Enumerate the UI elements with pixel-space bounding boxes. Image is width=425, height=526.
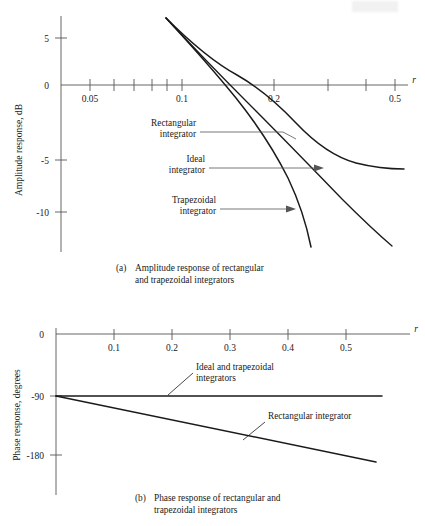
x-ticklabel-b-1: 0.2 [166,343,178,353]
annotation-a-trapezoidal-line2: integrator [180,206,217,216]
curve-rectangular-integrator [166,18,404,169]
leader-arrow-a-ideal [314,165,324,172]
annotation-a-trapezoidal-line1: Trapezoidal [172,195,216,205]
y-ticklabel-a-0: 5 [44,34,49,44]
annotation-a-rectangular-line2: integrator [160,129,197,139]
annotation-b-rectangular-line1: Rectangular integrator [268,411,352,421]
x-axis-title-a: r [412,75,416,85]
x-ticklabel-a-1: 0.1 [176,94,188,104]
amplitude-response-chart: 5 0 -5 -10 Amplitude response, dB 0.05 0… [0,0,425,300]
caption-b-line2: trapezoidal integrators [154,505,238,515]
curve-rectangular-integrator-phase [56,396,376,462]
phase-response-chart: 0 -90 -180 Phase response, degrees 0.1 0… [0,300,425,526]
x-ticklabel-b-2: 0.3 [224,343,236,353]
annotation-b-ideal-line2: integrators [196,373,236,383]
leader-tip-a-rectangular [283,132,296,139]
x-ticklabel-a-0: 0.05 [82,94,99,104]
annotation-a-ideal-line2: integrator [169,165,206,175]
caption-a-line1: Amplitude response of rectangular [135,263,265,273]
y-ticklabel-b-0: 0 [39,330,44,340]
annotation-a-rectangular-line1: Rectangular [151,118,197,128]
y-ticklabel-a-2: -5 [41,156,49,166]
y-ticklabel-a-3: -10 [36,208,49,218]
x-ticklabel-b-3: 0.4 [282,343,294,353]
leader-arrow-a-trapezoidal [286,206,296,213]
y-axis-title-b: Phase response, degrees [12,369,22,461]
x-ticklabel-b-4: 0.5 [340,343,352,353]
caption-b-label: (b) [135,493,146,504]
y-ticklabel-b-2: -180 [27,451,45,461]
caption-a-line2: and trapezoidal integrators [135,275,235,285]
x-ticklabel-a-3: 0.5 [389,94,401,104]
leader-line-b-ideal [168,373,193,395]
x-axis-title-b: r [414,324,418,334]
y-ticklabel-b-1: -90 [31,392,44,402]
annotation-a-ideal-line1: Ideal [186,154,205,164]
y-ticklabel-a-1: 0 [44,81,49,91]
x-ticklabel-b-0: 0.1 [108,343,120,353]
y-axis-title-a: Amplitude response, dB [14,104,24,196]
caption-a-label: (a) [116,263,126,274]
caption-b-line1: Phase response of rectangular and [154,493,281,503]
figure-integrator-response: 5 0 -5 -10 Amplitude response, dB 0.05 0… [0,0,425,526]
annotation-b-ideal-line1: Ideal and trapezoidal [196,362,274,372]
